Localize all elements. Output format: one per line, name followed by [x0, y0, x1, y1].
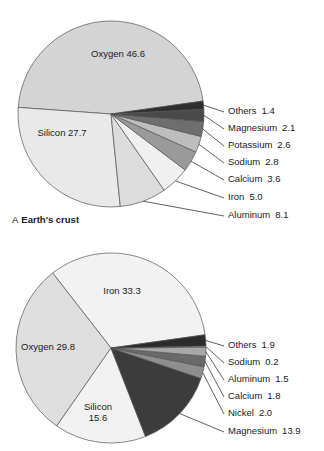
leader-line	[206, 352, 224, 380]
callout-label-name: Sodium	[228, 356, 260, 367]
figure-panel-letter: A	[12, 214, 18, 225]
pie-slice-callout-label: Calcium3.6	[228, 174, 281, 184]
pie-slice-callout-label: Calcium1.8	[228, 391, 281, 401]
leader-line	[204, 105, 224, 112]
pie-slice-callout-label: Others1.9	[228, 340, 275, 350]
callout-label-value: 1.4	[262, 105, 275, 116]
callout-label-name: Magnesium	[228, 122, 277, 133]
callout-label-name: Potassium	[228, 139, 272, 150]
leader-line	[176, 181, 224, 198]
callout-label-value: 1.8	[267, 390, 280, 401]
pie-slice	[18, 107, 120, 207]
callout-label-value: 2.1	[282, 122, 295, 133]
pie-slice-inner-label: Iron 33.3	[103, 285, 141, 296]
figure-caption-earths-crust: AEarth's crust	[12, 214, 79, 225]
callout-label-value: 2.6	[277, 139, 290, 150]
leader-line	[205, 362, 224, 397]
pie-chart-core-mantle: Iron 33.3Oxygen 29.8Silicon15.6	[0, 240, 324, 451]
leader-line	[191, 161, 224, 180]
leader-line	[199, 144, 224, 163]
callout-label-name: Aluminum	[228, 209, 270, 220]
pie-slice-inner-label: Silicon 27.7	[37, 127, 86, 138]
pie-slice-inner-label: Oxygen 46.6	[91, 48, 145, 59]
callout-label-value: 2.0	[259, 407, 272, 418]
pie-slice-callout-label: Aluminum8.1	[228, 210, 288, 220]
leader-line	[180, 414, 224, 432]
pie-slice-callout-label: Sodium2.8	[228, 157, 278, 167]
leader-line	[206, 340, 224, 346]
callout-label-value: 5.0	[249, 191, 262, 202]
pie-slice-callout-label: Others1.4	[228, 106, 275, 116]
callout-label-name: Aluminum	[228, 373, 270, 384]
callout-label-name: Magnesium	[228, 425, 277, 436]
callout-label-name: Others	[228, 105, 257, 116]
pie-slice-callout-label: Magnesium13.9	[228, 426, 301, 436]
pie-slice-callout-label: Iron5.0	[228, 192, 263, 202]
pie-chart-earths-crust: Oxygen 46.6Silicon 27.7	[0, 0, 324, 240]
pie-slice-inner-label: Oxygen 29.8	[21, 341, 75, 352]
figure-title: Earth's crust	[21, 214, 79, 225]
callout-label-name: Others	[228, 339, 257, 350]
pie-slice-callout-label: Sodium0.2	[228, 357, 278, 367]
leader-line	[143, 201, 224, 216]
callout-label-value: 2.8	[265, 156, 278, 167]
callout-label-name: Calcium	[228, 390, 262, 401]
leader-line	[203, 373, 224, 414]
callout-label-value: 1.9	[262, 339, 275, 350]
pie-chart-figure-core-mantle: Iron 33.3Oxygen 29.8Silicon15.6 Magnesiu…	[0, 240, 324, 451]
leader-line	[204, 115, 224, 129]
leader-line	[203, 129, 224, 146]
pie-slice-callout-label: Nickel2.0	[228, 408, 272, 418]
pie-slice-callout-label: Potassium2.6	[228, 140, 291, 150]
callout-label-value: 3.6	[267, 173, 280, 184]
callout-label-name: Sodium	[228, 156, 260, 167]
callout-label-value: 0.2	[265, 356, 278, 367]
callout-label-name: Nickel	[228, 407, 254, 418]
pie-chart-figure-earths-crust: Oxygen 46.6Silicon 27.7 Aluminum8.1Iron5…	[0, 0, 324, 240]
callout-label-value: 1.5	[275, 373, 288, 384]
pie-slice-callout-label: Aluminum1.5	[228, 374, 288, 384]
callout-label-value: 8.1	[275, 209, 288, 220]
pie-slice-callout-label: Magnesium2.1	[228, 123, 295, 133]
callout-label-value: 13.9	[282, 425, 301, 436]
pie-slice	[18, 21, 203, 114]
leader-line	[206, 347, 224, 363]
callout-label-name: Calcium	[228, 173, 262, 184]
callout-label-name: Iron	[228, 191, 244, 202]
